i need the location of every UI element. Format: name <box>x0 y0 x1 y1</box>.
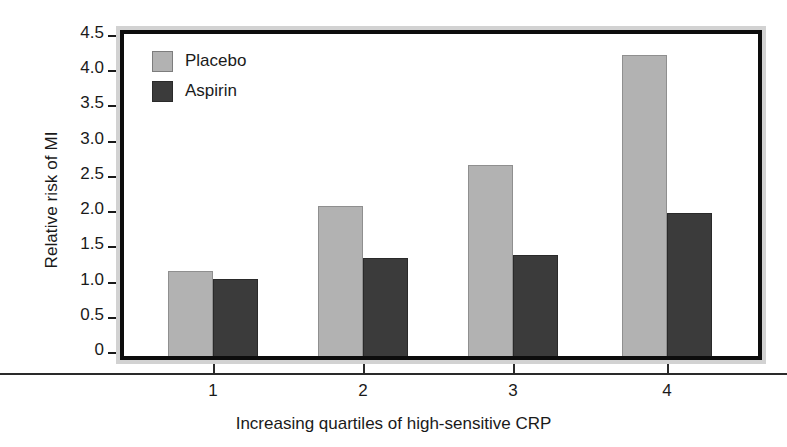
y-axis-tick-label: 3.0 <box>58 129 104 149</box>
bar-placebo-q3 <box>468 165 513 356</box>
x-axis-tick-mark <box>513 364 515 374</box>
plot-area: Placebo Aspirin <box>124 34 758 356</box>
y-axis-ticks: 00.51.01.52.02.53.03.54.04.5 <box>58 0 120 447</box>
bar-placebo-q4 <box>622 55 667 356</box>
bar-aspirin-q2 <box>363 258 408 356</box>
x-axis-tick-mark <box>213 364 215 374</box>
y-axis-tick-label: 3.5 <box>58 93 104 113</box>
x-axis-tick-label: 3 <box>493 381 533 401</box>
x-axis-title: Increasing quartiles of high-sensitive C… <box>0 414 787 434</box>
y-axis-tick-label: 2.5 <box>58 164 104 184</box>
x-axis-tick-mark <box>363 364 365 374</box>
legend-swatch-placebo <box>152 51 173 72</box>
y-axis-tick-label: 0 <box>58 340 104 360</box>
x-axis-tick-label: 1 <box>193 381 233 401</box>
legend-swatch-aspirin <box>152 81 173 102</box>
y-axis-tick-label: 2.0 <box>58 199 104 219</box>
legend-item-aspirin: Aspirin <box>152 80 246 102</box>
y-axis-tick-label: 4.0 <box>58 58 104 78</box>
x-axis-tick-label: 4 <box>647 381 687 401</box>
y-axis-tick-label: 1.5 <box>58 234 104 254</box>
plot-frame-border: Placebo Aspirin <box>120 30 762 360</box>
y-axis-tick-label: 0.5 <box>58 305 104 325</box>
bar-aspirin-q4 <box>667 213 712 356</box>
bar-chart: Relative risk of MI 00.51.01.52.02.53.03… <box>0 0 787 447</box>
legend-item-placebo: Placebo <box>152 50 246 72</box>
x-axis-tick-mark <box>667 364 669 374</box>
legend: Placebo Aspirin <box>152 50 246 110</box>
bar-placebo-q2 <box>318 206 363 356</box>
legend-label-placebo: Placebo <box>185 51 246 71</box>
bar-aspirin-q3 <box>513 255 558 356</box>
bar-placebo-q1 <box>168 271 213 356</box>
x-axis-tick-label: 2 <box>343 381 383 401</box>
y-axis-tick-label: 4.5 <box>58 23 104 43</box>
plot-frame: Placebo Aspirin <box>116 26 766 364</box>
bar-aspirin-q1 <box>213 279 258 356</box>
y-axis-tick-label: 1.0 <box>58 270 104 290</box>
legend-label-aspirin: Aspirin <box>185 81 237 101</box>
